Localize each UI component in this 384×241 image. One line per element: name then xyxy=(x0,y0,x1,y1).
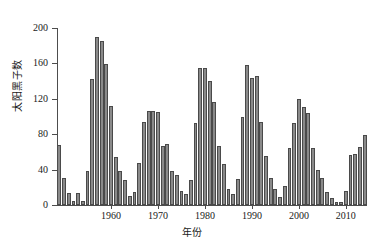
bar xyxy=(123,180,127,205)
bar xyxy=(358,147,362,205)
bar xyxy=(151,111,155,205)
bar xyxy=(212,102,216,205)
bar xyxy=(114,157,118,205)
bar xyxy=(259,122,263,205)
bar xyxy=(133,192,137,205)
y-tick-label: 40 xyxy=(38,165,48,175)
bar xyxy=(297,99,301,205)
y-tick-label: 0 xyxy=(43,200,48,210)
bar xyxy=(288,148,292,205)
bar xyxy=(278,197,282,205)
bar xyxy=(165,144,169,205)
x-tick-label: 2000 xyxy=(289,210,309,221)
bar xyxy=(316,170,320,205)
bar xyxy=(100,41,104,205)
bar xyxy=(67,193,71,205)
x-axis-line xyxy=(57,205,367,206)
x-tick-mark xyxy=(252,205,253,209)
plot-area xyxy=(57,28,367,205)
x-tick-label: 2010 xyxy=(336,210,356,221)
bar xyxy=(161,146,165,205)
x-tick-mark xyxy=(111,205,112,209)
y-tick-label: 120 xyxy=(33,94,48,104)
bar xyxy=(222,164,226,205)
bar xyxy=(203,68,207,205)
bar xyxy=(231,194,235,206)
bar xyxy=(292,123,296,205)
sunspot-number-chart: 04080120160200 196019701980199020002010 … xyxy=(0,0,384,241)
bar xyxy=(170,171,174,205)
bar xyxy=(76,193,80,205)
bars-layer xyxy=(57,28,367,205)
bar xyxy=(95,37,99,205)
bar xyxy=(217,146,221,205)
y-axis-title: 太阳黑子数 xyxy=(9,38,24,134)
bar xyxy=(311,148,315,205)
x-tick-label: 1990 xyxy=(242,210,262,221)
bar xyxy=(245,65,249,205)
bar xyxy=(306,113,310,205)
x-tick-label: 1980 xyxy=(195,210,215,221)
bar xyxy=(363,135,367,205)
y-tick-mark xyxy=(52,28,57,29)
bar xyxy=(142,122,146,205)
bar xyxy=(283,186,287,205)
bar xyxy=(353,154,357,205)
bar xyxy=(330,198,334,205)
bar xyxy=(250,78,254,205)
y-tick-mark xyxy=(52,63,57,64)
bar xyxy=(86,171,90,205)
bar xyxy=(189,180,193,205)
x-tick-mark xyxy=(299,205,300,209)
bar xyxy=(62,178,66,205)
bar xyxy=(175,175,179,205)
y-tick-mark xyxy=(52,99,57,100)
y-tick-mark xyxy=(52,170,57,171)
x-tick-label: 1970 xyxy=(148,210,168,221)
bar xyxy=(302,107,306,205)
y-tick-label: 200 xyxy=(33,23,48,33)
bar xyxy=(128,196,132,205)
bar xyxy=(241,117,245,206)
bar xyxy=(344,191,348,205)
bar xyxy=(349,155,353,205)
y-tick-label: 160 xyxy=(33,58,48,68)
bar xyxy=(198,68,202,205)
bar xyxy=(264,156,268,205)
x-tick-mark xyxy=(346,205,347,209)
bar xyxy=(104,64,108,205)
x-axis-title: 年份 xyxy=(0,224,384,239)
bar xyxy=(147,111,151,205)
x-tick-mark xyxy=(158,205,159,209)
bar xyxy=(180,191,184,205)
x-tick-mark xyxy=(205,205,206,209)
bar xyxy=(156,112,160,205)
bar xyxy=(325,192,329,205)
bar xyxy=(184,194,188,206)
bar xyxy=(118,171,122,205)
bar xyxy=(320,178,324,205)
x-tick-label: 1960 xyxy=(101,210,121,221)
bar xyxy=(227,189,231,205)
y-tick-mark xyxy=(52,205,57,206)
bar xyxy=(255,76,259,205)
bar xyxy=(137,163,141,205)
bar xyxy=(273,189,277,205)
bar xyxy=(208,81,212,205)
bar xyxy=(194,123,198,205)
y-tick-mark xyxy=(52,134,57,135)
bar xyxy=(90,79,94,205)
y-tick-label: 80 xyxy=(38,129,48,139)
bar xyxy=(236,179,240,205)
bar xyxy=(269,178,273,205)
y-axis-line xyxy=(57,28,58,205)
bar xyxy=(109,106,113,205)
